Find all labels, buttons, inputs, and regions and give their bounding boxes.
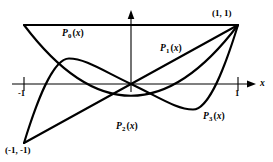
annotation-top-right-point: (1, 1)	[212, 9, 232, 18]
legendre-polynomials-figure: (1, 1) (-1, -1) x -1 1 P0(x) P1(x) P2(x)…	[0, 0, 273, 162]
x-tick-label-one: 1	[235, 89, 239, 98]
curve-label-p3-base: P	[203, 111, 209, 121]
annotation-bottom-left-point: (-1, -1)	[5, 146, 31, 155]
curve-label-p0-base: P	[62, 28, 68, 38]
curve-label-p2-var: x	[130, 121, 135, 131]
curve-label-p1: P1(x)	[160, 44, 182, 55]
curve-label-p1-base: P	[160, 43, 166, 53]
x-axis-label: x	[260, 79, 265, 89]
curve-label-p0-var: x	[76, 28, 81, 38]
curve-label-p1-argument: (x)	[169, 43, 181, 53]
plot-canvas	[0, 0, 273, 162]
curve-label-p2-base: P	[116, 121, 122, 131]
curve-label-p3-var: x	[217, 111, 222, 121]
curve-label-p2: P2(x)	[116, 122, 138, 133]
curve-label-p3-argument: (x)	[212, 111, 224, 121]
y-axis	[128, 10, 135, 92]
curve-label-p0-argument: (x)	[71, 28, 83, 38]
curve-label-p3: P3(x)	[203, 112, 225, 123]
curve-label-p2-argument: (x)	[125, 121, 137, 131]
x-tick-label-minus-one: -1	[18, 89, 25, 98]
curve-label-p1-var: x	[174, 43, 179, 53]
curve-label-p0: P0(x)	[62, 29, 84, 40]
